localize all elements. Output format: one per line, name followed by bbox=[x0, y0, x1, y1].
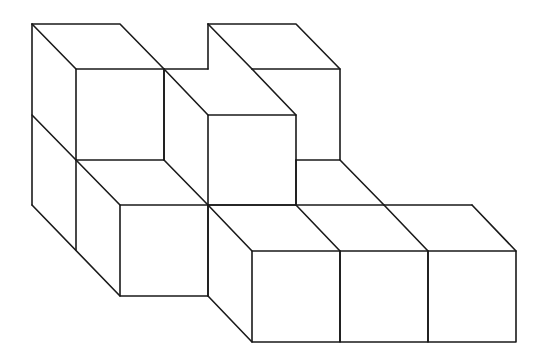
cube-lines bbox=[32, 24, 516, 342]
cube-structure-diagram bbox=[0, 0, 547, 363]
